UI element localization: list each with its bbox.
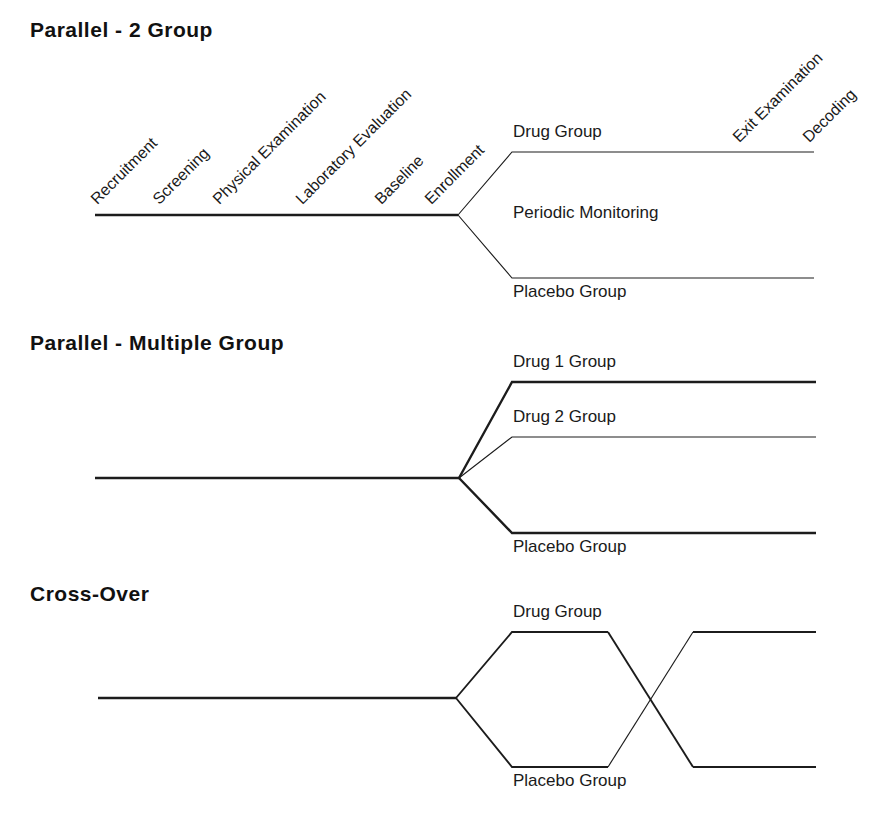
panel-title-cross-over: Cross-Over: [30, 582, 149, 606]
branch-placebo-group-2: [459, 478, 816, 533]
branch-placebo-group-3: [456, 698, 608, 767]
arm-label-placebo-group-1: Placebo Group: [513, 282, 626, 302]
arm-label-placebo-group-2: Placebo Group: [513, 537, 626, 557]
arm-label-drug-group-1: Drug Group: [513, 122, 602, 142]
branch-drug-group-3: [456, 632, 608, 698]
arm-label-periodic-monitoring: Periodic Monitoring: [513, 203, 659, 223]
branch-placebo-group-1: [458, 215, 814, 278]
arm-label-drug-1-group: Drug 1 Group: [513, 352, 616, 372]
panel-title-parallel-multiple-group: Parallel - Multiple Group: [30, 331, 284, 355]
diagram-parallel-multiple-group: [95, 382, 816, 533]
branch-drug-2-group: [459, 437, 816, 478]
panel-title-parallel-2-group: Parallel - 2 Group: [30, 18, 213, 42]
arm-label-drug-group-3: Drug Group: [513, 602, 602, 622]
diagram-cross-over: [98, 632, 816, 767]
arm-label-drug-2-group: Drug 2 Group: [513, 407, 616, 427]
branch-drug-1-group: [459, 382, 816, 478]
arm-label-placebo-group-3: Placebo Group: [513, 771, 626, 791]
